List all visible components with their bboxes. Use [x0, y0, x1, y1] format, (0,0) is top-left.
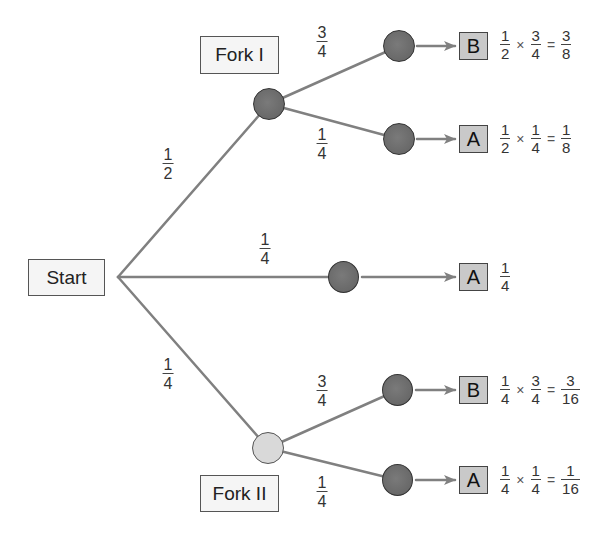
- outcome-expr-5: 14 × 14 = 116: [500, 464, 580, 496]
- branch-prob-fork1-lower: 14: [317, 127, 328, 161]
- branch-prob-fork2-lower: 14: [317, 475, 328, 509]
- edge-fork2-upper: [268, 390, 398, 448]
- outcome-box-5: A: [459, 466, 488, 494]
- fork2-lower-node: [382, 464, 413, 496]
- edge-start-fork1: [118, 104, 269, 277]
- outcome-box-4: B: [459, 376, 488, 404]
- outcome-box-1: B: [459, 32, 488, 60]
- edge-fork1-lower: [269, 104, 399, 139]
- outcome-expr-4: 14 × 34 = 316: [500, 374, 580, 406]
- branch-prob-start-fork1: 12: [163, 147, 174, 181]
- edge-fork1-upper: [269, 46, 399, 104]
- fork2-node: [252, 432, 284, 464]
- outcome-box-2: A: [459, 125, 488, 153]
- branch-prob-start-middle: 14: [260, 232, 271, 266]
- middle-node: [328, 261, 359, 293]
- branch-prob-fork2-upper: 34: [317, 374, 328, 408]
- branch-prob-start-fork2: 14: [163, 357, 174, 391]
- edge-start-fork2: [118, 277, 268, 448]
- fork2-label: Fork II: [200, 475, 279, 512]
- fork1-node: [253, 88, 285, 120]
- branch-prob-fork1-upper: 34: [317, 25, 328, 59]
- outcome-expr-1: 12 × 34 = 38: [500, 29, 571, 61]
- outcome-box-3: A: [459, 263, 488, 291]
- fork1-upper-node: [383, 30, 415, 62]
- outcome-expr-2: 12 × 14 = 18: [500, 123, 571, 155]
- edge-fork2-lower: [268, 448, 398, 480]
- fork2-upper-node: [382, 374, 413, 406]
- probability-tree-diagram: Start Fork I Fork II 12 14 14 34 14 34 1…: [0, 0, 609, 539]
- start-label: Start: [28, 259, 105, 296]
- outcome-expr-3: 14: [500, 261, 510, 293]
- fork1-lower-node: [383, 123, 415, 155]
- fork1-label: Fork I: [200, 36, 279, 74]
